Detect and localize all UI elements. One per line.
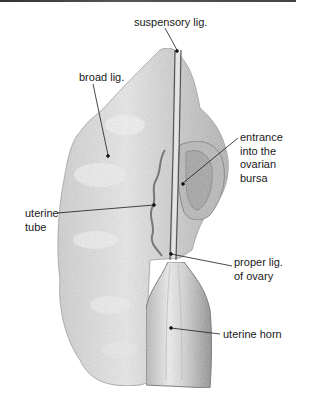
- label-entrance-ovarian-bursa: entrance into the ovarian bursa: [240, 131, 283, 185]
- ovarian-bursa-shape: [178, 141, 224, 220]
- label-line: entrance: [240, 131, 283, 145]
- label-uterine-horn: uterine horn: [223, 328, 282, 342]
- label-uterine-tube: uterine tube: [25, 207, 59, 234]
- tube-dot: [153, 204, 156, 207]
- label-broad-ligament: broad lig.: [79, 71, 124, 85]
- label-line: of ovary: [234, 270, 283, 284]
- label-line: into the: [240, 145, 283, 159]
- label-line: bursa: [240, 172, 283, 186]
- label-line: proper lig.: [234, 256, 283, 270]
- uterine-horn-shape: [146, 262, 212, 388]
- label-suspensory-ligament: suspensory lig.: [134, 16, 207, 30]
- broad-dot: [107, 155, 110, 158]
- label-proper-ligament-ovary: proper lig. of ovary: [234, 256, 283, 283]
- label-line: tube: [25, 221, 59, 235]
- label-line: uterine: [25, 207, 59, 221]
- proper-lig-dot: [170, 253, 173, 256]
- horn-dot: [170, 327, 173, 330]
- label-line: ovarian: [240, 158, 283, 172]
- entrance-dot: [182, 183, 185, 186]
- suspensory-dot: [176, 50, 179, 53]
